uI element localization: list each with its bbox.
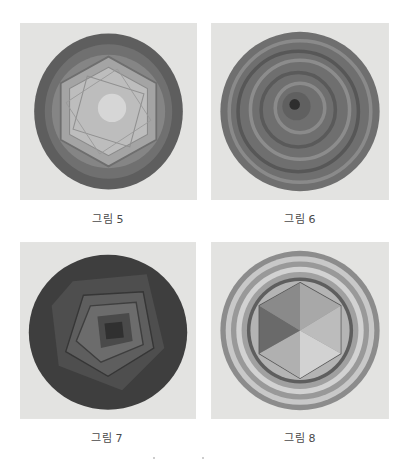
figure-5-caption: 그림 5 [18,210,198,226]
figure-8-caption: 그림 8 [210,429,390,445]
figure-7-image [20,242,196,419]
figure-8-image [211,242,389,419]
figure-6-caption: 그림 6 [210,210,390,226]
scan-speck [202,457,204,459]
figure-7-drawing [20,242,196,419]
figure-5-image [20,23,197,200]
figure-6-drawing [211,23,389,200]
scan-speck [153,457,155,459]
figure-5-drawing [20,23,197,200]
figure-8-drawing [211,242,389,419]
figure-7-caption: 그림 7 [17,429,197,445]
figure-6-image [211,23,389,200]
